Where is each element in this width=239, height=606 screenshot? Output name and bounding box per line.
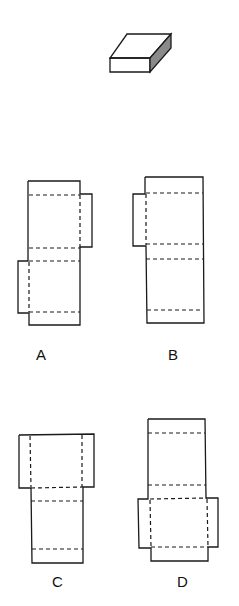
box-3d: [110, 34, 171, 72]
net-option-c[interactable]: C: [19, 434, 94, 590]
option-label-d: D: [177, 573, 188, 590]
option-label-a: A: [36, 346, 46, 363]
net-option-b[interactable]: B: [133, 177, 204, 363]
option-label-c: C: [52, 573, 63, 590]
option-label-b: B: [168, 346, 178, 363]
net-option-d[interactable]: D: [138, 419, 218, 590]
net-option-a[interactable]: A: [18, 181, 92, 363]
diagram: A B C D: [0, 0, 239, 606]
